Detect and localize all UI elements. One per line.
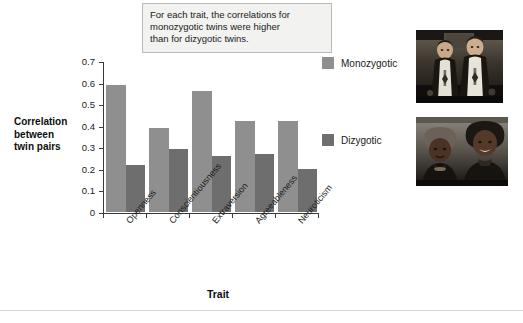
x-axis-tick: [232, 214, 233, 218]
annotation-callout: For each trait, the correlations for mon…: [142, 3, 332, 53]
y-axis-tick: 0.7: [99, 62, 103, 63]
photo-male-twins-graphic: [416, 30, 503, 103]
x-axis-tick: [146, 214, 147, 218]
legend-item-dizygotic: Dizygotic: [322, 134, 382, 146]
legend-swatch-monozygotic: [322, 57, 334, 69]
y-axis-tick: 0.6: [99, 84, 103, 85]
annotation-line-2: monozygotic twins were higher: [150, 21, 324, 33]
y-axis-tick-label: 0.3: [82, 142, 95, 153]
legend-label-dizygotic: Dizygotic: [341, 135, 382, 146]
x-axis-tick: [275, 214, 276, 218]
annotation-line-3: than for dizygotic twins.: [150, 33, 324, 45]
y-axis-tick-label: 0: [90, 207, 95, 218]
y-axis-tick: 0.4: [99, 127, 103, 128]
legend-item-monozygotic: Monozygotic: [322, 57, 397, 69]
y-axis-line: [103, 62, 104, 214]
y-axis-tick-label: 0.4: [82, 121, 95, 132]
photo-female-twins: [416, 117, 508, 186]
bar-openness-monozygotic: [106, 85, 126, 212]
y-axis-tick-label: 0.1: [82, 185, 95, 196]
x-axis-tick: [103, 214, 104, 218]
y-axis-tick: 0.3: [99, 148, 103, 149]
y-axis-tick-label: 0.5: [82, 99, 95, 110]
y-axis-tick: 0.5: [99, 105, 103, 106]
y-axis-tick-label: 0.2: [82, 164, 95, 175]
y-axis-tick-label: 0.7: [82, 56, 95, 67]
y-axis-tick-label: 0.6: [82, 78, 95, 89]
y-axis-tick: 0.2: [99, 170, 103, 171]
y-axis-tick: 0.1: [99, 191, 103, 192]
legend-label-monozygotic: Monozygotic: [341, 58, 397, 69]
photo-male-twins: [416, 30, 503, 103]
x-axis-title: Trait: [0, 288, 436, 300]
x-axis-tick: [318, 214, 319, 218]
annotation-line-1: For each trait, the correlations for: [150, 9, 324, 21]
bottom-divider: [0, 310, 523, 311]
legend-swatch-dizygotic: [322, 134, 334, 146]
photo-female-twins-graphic: [416, 117, 508, 186]
x-axis-tick: [189, 214, 190, 218]
